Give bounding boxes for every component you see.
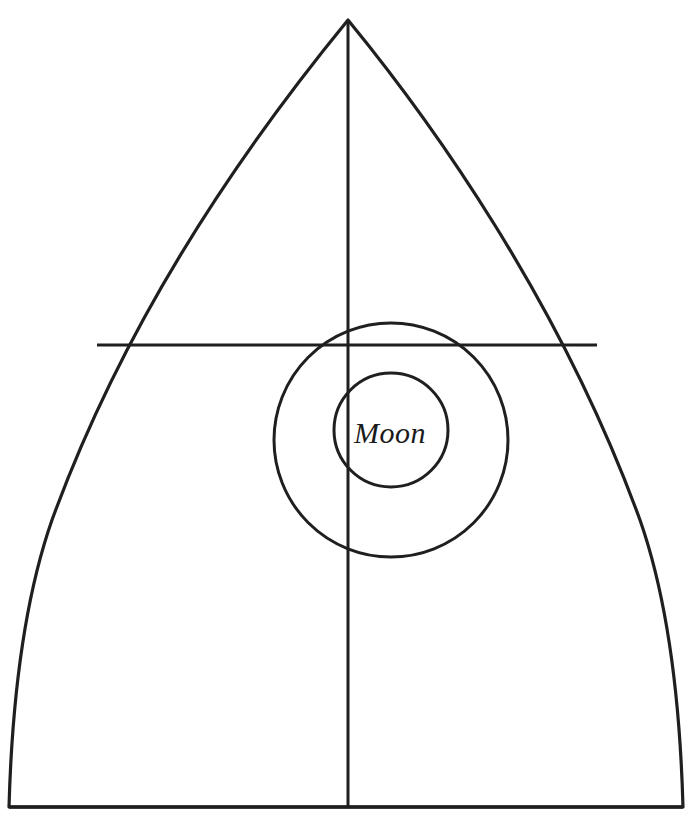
moon-label: Moon — [353, 416, 426, 449]
figure-root: Moon — [0, 0, 700, 838]
background-plate — [0, 0, 700, 838]
diagram-canvas: Moon — [0, 0, 700, 838]
caption-sliver — [0, 828, 700, 838]
